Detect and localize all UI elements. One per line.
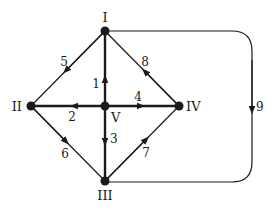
node-V — [101, 102, 110, 111]
edge-label-6: 6 — [61, 147, 69, 161]
edge-label-3: 3 — [110, 132, 118, 146]
edge-label-4: 4 — [134, 90, 142, 104]
node-I — [101, 27, 110, 36]
edge-6-arrow — [31, 106, 66, 142]
node-IV — [175, 102, 184, 111]
edge-label-5: 5 — [60, 55, 68, 69]
edge-label-7: 7 — [142, 146, 150, 160]
node-label-II: II — [12, 99, 22, 114]
edge-label-8: 8 — [141, 55, 149, 69]
graph-diagram: I II III IV V 1 2 3 4 5 6 7 8 9 — [0, 0, 275, 212]
node-III — [101, 177, 110, 186]
edge-label-2: 2 — [68, 110, 76, 124]
node-II — [27, 102, 36, 111]
node-label-III: III — [97, 188, 112, 203]
edge-8-arrow — [145, 72, 179, 107]
node-label-I: I — [102, 10, 107, 25]
edge-label-1: 1 — [92, 77, 100, 91]
node-label-V: V — [110, 110, 121, 125]
edge-label-9: 9 — [256, 100, 264, 114]
edge-5-arrow — [66, 31, 105, 71]
node-label-IV: IV — [186, 99, 201, 114]
